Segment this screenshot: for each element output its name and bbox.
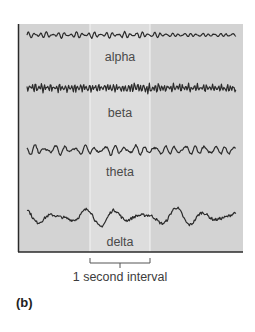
wave-label-beta: beta bbox=[108, 106, 132, 120]
panel-letter: (b) bbox=[16, 295, 33, 310]
wave-label-delta: delta bbox=[106, 235, 133, 249]
interval-bracket bbox=[90, 258, 150, 263]
interval-label: 1 second interval bbox=[73, 270, 168, 284]
wave-label-theta: theta bbox=[106, 165, 134, 179]
eeg-waveform-figure: alpha beta theta delta 1 second interval… bbox=[0, 0, 255, 332]
wave-label-alpha: alpha bbox=[105, 50, 136, 64]
